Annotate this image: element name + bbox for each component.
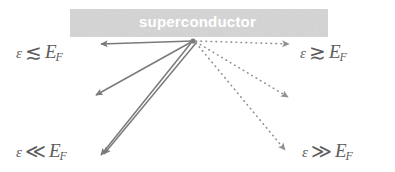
arrow-solid-lower-left-a	[101, 43, 191, 155]
superconductor-scattering-figure: superconductor ε≲EF ε≳EF	[0, 0, 395, 172]
solid-arrows	[96, 41, 196, 155]
relation-symbol: ≫	[311, 141, 332, 161]
relation-symbol: ≲	[25, 42, 42, 62]
arrow-solid-left-diagonal	[96, 41, 193, 95]
label-epsilon-much-greater-ef: ε≫EF	[302, 140, 353, 162]
label-epsilon-gtrsim-ef: ε≳EF	[300, 41, 347, 63]
epsilon-symbol: ε	[16, 45, 22, 61]
arrow-dotted-right-diagonal	[196, 42, 288, 97]
energy-symbol: E	[49, 140, 61, 161]
epsilon-symbol: ε	[302, 144, 308, 160]
energy-subscript: F	[60, 149, 67, 163]
relation-symbol: ≳	[309, 42, 326, 62]
epsilon-symbol: ε	[300, 45, 306, 61]
dotted-arrows	[196, 41, 289, 150]
epsilon-symbol: ε	[16, 144, 22, 160]
energy-symbol: E	[45, 41, 57, 62]
energy-subscript: F	[340, 50, 347, 64]
arrow-solid-left-horizontal	[101, 41, 193, 44]
energy-symbol: E	[335, 140, 347, 161]
energy-symbol: E	[329, 41, 341, 62]
arrow-dotted-right-horizontal	[196, 41, 289, 44]
energy-subscript: F	[56, 50, 63, 64]
label-epsilon-much-less-ef: ε≪EF	[16, 140, 67, 162]
energy-subscript: F	[346, 149, 353, 163]
label-epsilon-lesssim-ef: ε≲EF	[16, 41, 63, 63]
scattering-origin-point	[190, 38, 195, 43]
arrow-solid-lower-left-b	[104, 43, 196, 154]
arrow-dotted-lower-right	[196, 43, 285, 150]
relation-symbol: ≪	[25, 141, 46, 161]
